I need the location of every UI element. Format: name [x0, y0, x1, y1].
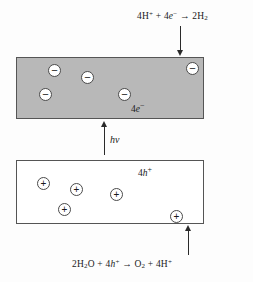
oxidation-eq-hole-charge: +	[115, 258, 119, 266]
hole-carrier: +	[170, 210, 183, 223]
plus-icon: +	[59, 204, 70, 215]
reduction-eq-proton-symbol: H+	[142, 11, 153, 21]
reduction-eq-electron-charge: −	[173, 10, 177, 18]
reduction-eq-plus-1: +	[156, 11, 162, 21]
photon-energy-label: hv	[110, 134, 119, 145]
electron-carrier: −	[118, 88, 131, 101]
oxidation-eq-water-symbol: H2O	[77, 259, 95, 269]
electron-carrier: −	[48, 64, 61, 77]
hole-carrier: +	[37, 177, 50, 190]
electron-count-charge: −	[140, 101, 144, 110]
minus-icon: −	[82, 72, 93, 83]
reduction-arrow-shaft	[180, 26, 181, 51]
reduction-arrow-head-icon	[177, 50, 183, 56]
electron-carrier: −	[81, 71, 94, 84]
plus-icon: +	[111, 189, 122, 200]
minus-icon: −	[119, 89, 130, 100]
hole-count-label: 4h+	[138, 165, 152, 178]
oxidation-eq-arrow-glyph: →	[122, 259, 132, 269]
electron-count-label: 4e−	[131, 101, 144, 114]
photocatalysis-band-diagram: 4H+ + 4e− → 2H2 − − − − − 4e− hv + + + +…	[0, 0, 253, 282]
hole-carrier: +	[70, 183, 83, 196]
reduction-equation: 4H+ + 4e− → 2H2	[137, 10, 208, 22]
oxidation-eq-plus-2: +	[148, 259, 154, 269]
hole-count-charge: +	[148, 165, 152, 174]
oxidation-arrow-shaft	[188, 231, 189, 255]
electron-carrier: −	[186, 62, 199, 75]
hole-carrier: +	[58, 203, 71, 216]
oxidation-arrow-head-icon	[185, 225, 191, 231]
minus-icon: −	[40, 89, 51, 100]
minus-icon: −	[187, 63, 198, 74]
valence-band-box: + + + + +	[16, 160, 204, 224]
plus-icon: +	[171, 211, 182, 222]
conduction-band-box: − − − − −	[16, 57, 204, 119]
photoexcitation-arrow-head-icon	[101, 121, 107, 127]
photoexcitation-arrow-shaft	[104, 127, 105, 155]
hole-carrier: +	[110, 188, 123, 201]
oxidation-eq-oxygen-symbol: O2	[134, 259, 145, 269]
reduction-eq-hydrogen-symbol: H2	[197, 11, 208, 21]
oxidation-eq-proton-symbol: H+	[161, 259, 172, 269]
oxidation-eq-plus-1: +	[97, 259, 103, 269]
minus-icon: −	[49, 65, 60, 76]
plus-icon: +	[38, 178, 49, 189]
electron-carrier: −	[39, 88, 52, 101]
plus-icon: +	[71, 184, 82, 195]
oxidation-equation: 2H2O + 4h+ → O2 + 4H+	[72, 258, 172, 270]
reduction-eq-arrow-glyph: →	[180, 11, 190, 21]
